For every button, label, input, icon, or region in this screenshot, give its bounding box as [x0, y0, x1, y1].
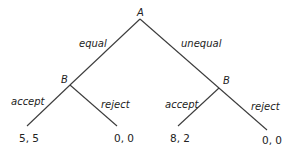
edge-label-unequal: unequal	[181, 38, 222, 49]
edge-label-right-accept: accept	[165, 99, 200, 110]
edge-label-equal: equal	[79, 38, 107, 49]
payoff-4: 0, 0	[262, 134, 282, 146]
payoff-3: 8, 2	[170, 132, 190, 144]
payoff-2: 0, 0	[114, 132, 134, 144]
edge-label-left-reject: reject	[101, 99, 131, 110]
node-b-right-label: B	[223, 75, 230, 86]
payoff-1: 5, 5	[19, 132, 39, 144]
edge-unequal	[140, 19, 267, 130]
edge-equal	[70, 19, 140, 85]
node-b-left-label: B	[61, 74, 68, 85]
node-a-label: A	[136, 7, 144, 18]
edge-label-left-accept: accept	[11, 96, 46, 107]
game-tree: A B B equal unequal accept reject accept…	[0, 0, 288, 153]
edge-label-right-reject: reject	[251, 101, 281, 112]
